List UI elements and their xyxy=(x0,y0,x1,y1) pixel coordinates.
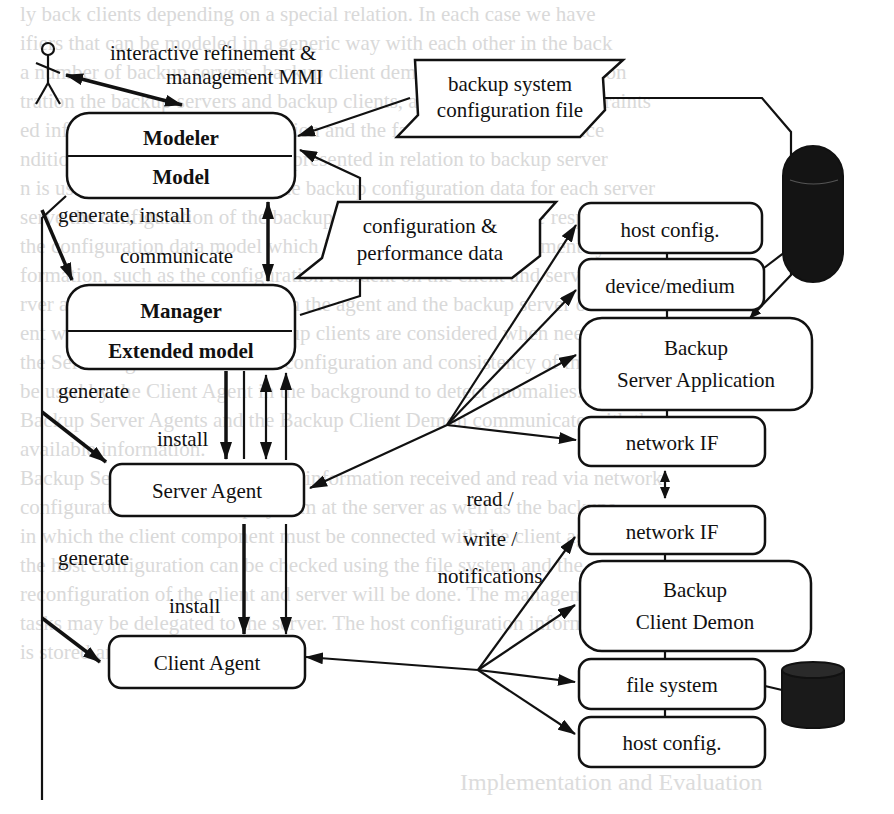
generate-install-label: generate, install xyxy=(58,203,191,227)
generate-client-label: generate xyxy=(58,546,129,570)
server-agent-label: Server Agent xyxy=(152,479,262,503)
client-network-if-label: network IF xyxy=(626,520,719,544)
modeler-model-label: Model xyxy=(152,165,209,189)
client-network-if-box[interactable]: network IF xyxy=(579,506,765,554)
rwn-label-line1: read / xyxy=(466,487,513,511)
rwn-label-line2: write / xyxy=(463,527,517,551)
client-demon-line2: Client Demon xyxy=(636,610,755,634)
config-file-tag: backup system configuration file xyxy=(397,60,623,137)
generate-spine-line xyxy=(42,196,66,800)
perf-data-tag: configuration & performance data xyxy=(297,202,556,278)
client-agent-box[interactable]: Client Agent xyxy=(109,636,305,688)
perf-data-line1: configuration & xyxy=(363,214,498,238)
server-network-if-box[interactable]: network IF xyxy=(579,417,765,466)
device-medium-box[interactable]: device/medium xyxy=(579,259,764,310)
device-medium-label: device/medium xyxy=(605,274,734,298)
install-client-label: install xyxy=(169,594,220,618)
actor-stick-figure-icon xyxy=(36,43,60,104)
manager-box[interactable]: Manager Extended model xyxy=(66,285,295,369)
modeler-title: Modeler xyxy=(143,126,219,150)
mmi-label-line1: interactive refinement & xyxy=(110,41,316,65)
manager-extended-model-label: Extended model xyxy=(108,339,253,363)
rwn-label-line3: notifications xyxy=(438,564,543,588)
server-network-if-label: network IF xyxy=(626,431,719,455)
client-host-config-box[interactable]: host config. xyxy=(579,717,765,767)
backup-client-demon-box[interactable]: Backup Client Demon xyxy=(580,561,811,651)
file-system-box[interactable]: file system xyxy=(579,659,765,709)
config-to-modeler-arrow xyxy=(298,98,410,136)
server-host-config-box[interactable]: host config. xyxy=(579,203,762,253)
mmi-label-line2: management MMI xyxy=(166,65,323,89)
manager-title: Manager xyxy=(140,299,222,323)
config-file-line1: backup system xyxy=(448,72,572,96)
server-app-line2: Server Application xyxy=(617,368,776,392)
client-disk-cylinder-icon xyxy=(765,662,844,728)
client-host-config-label: host config. xyxy=(622,731,721,755)
modeler-box[interactable]: Modeler Model xyxy=(66,113,295,198)
mmi-arrow xyxy=(66,75,182,105)
perf-data-line2: performance data xyxy=(357,241,504,265)
perf-to-modeler-arrow xyxy=(300,150,360,200)
client-demon-line1: Backup xyxy=(663,578,727,602)
communicate-label: communicate xyxy=(120,244,233,268)
server-agent-box[interactable]: Server Agent xyxy=(110,464,304,516)
server-storage-cylinder-icon xyxy=(764,146,843,282)
generate-to-client-agent-arrow xyxy=(42,618,100,662)
backup-server-application-box[interactable]: Backup Server Application xyxy=(580,318,812,410)
manager-to-perf-line xyxy=(300,278,360,315)
architecture-diagram: interactive refinement & management MMI … xyxy=(0,0,894,814)
client-agent-label: Client Agent xyxy=(154,651,261,675)
server-app-line1: Backup xyxy=(664,336,728,360)
install-server-label: install xyxy=(157,427,208,451)
generate-server-label: generate xyxy=(58,379,129,403)
file-system-label: file system xyxy=(626,673,718,697)
config-file-line2: configuration file xyxy=(437,98,583,122)
generate-to-server-agent-arrow xyxy=(42,412,106,462)
server-host-config-label: host config. xyxy=(620,218,719,242)
